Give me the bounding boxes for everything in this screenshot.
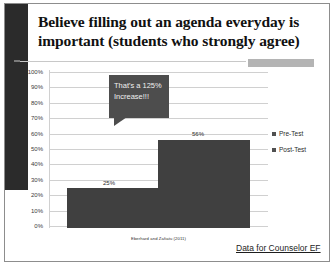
page-title: Believe filling out an agenda everyday i…: [38, 12, 324, 50]
y-axis-tick: 40%: [31, 161, 43, 167]
y-axis-tick: 60%: [31, 131, 43, 137]
chart-legend: Pre-Test Post-Test: [272, 130, 328, 162]
callout-text: That's a 125% Increase!!!: [114, 80, 166, 102]
y-axis-tick: 70%: [31, 115, 43, 121]
y-axis-tick: 90%: [31, 84, 43, 90]
y-axis: 100% 90% 80% 70% 60% 50% 40% 30% 20% 10%…: [16, 70, 46, 228]
callout-tail: [114, 117, 127, 126]
y-axis-tick: 20%: [31, 192, 43, 198]
y-axis-tick: 30%: [31, 177, 43, 183]
bar-label-post-test: 56%: [192, 131, 204, 138]
footer-note-text: Data for Counselor EF: [236, 243, 321, 253]
legend-item-pre-test[interactable]: Pre-Test: [272, 130, 328, 137]
bar-label-pre-test: 25%: [103, 180, 115, 187]
bar-post-test[interactable]: [158, 140, 250, 229]
bar-pre-test[interactable]: [67, 188, 158, 229]
header-accent-block: [248, 59, 314, 67]
legend-item-post-test[interactable]: Post-Test: [272, 146, 328, 153]
slide-canvas: Believe filling out an agenda everyday i…: [0, 0, 334, 267]
legend-swatch-icon: [272, 148, 276, 152]
y-axis-tick: 50%: [31, 146, 43, 152]
y-axis-tick: 10%: [31, 208, 43, 214]
y-axis-tick: 80%: [31, 100, 43, 106]
source-citation: Eberhard and Zafiatu (2011): [131, 236, 186, 241]
y-axis-tick: 100%: [28, 69, 43, 75]
y-axis-tick: 0%: [34, 223, 43, 229]
legend-label: Post-Test: [279, 146, 306, 153]
footer-note: Data for Counselor EF: [236, 243, 321, 253]
callout-bubble: That's a 125% Increase!!!: [109, 75, 169, 118]
title-divider: [14, 61, 246, 62]
legend-swatch-icon: [272, 132, 276, 136]
title-divider-cap: [14, 60, 20, 62]
legend-label: Pre-Test: [279, 130, 303, 137]
